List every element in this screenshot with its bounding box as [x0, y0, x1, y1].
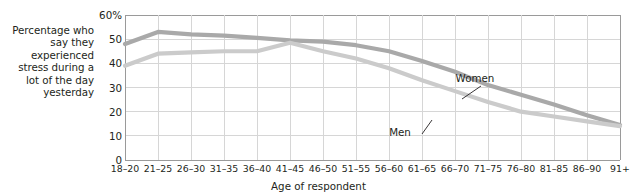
series-line-women: [125, 32, 620, 125]
x-axis-tick-label: 21–25: [144, 163, 173, 174]
x-axis-tick-label: 26–30: [177, 163, 206, 174]
x-axis-tick-label: 18–20: [111, 163, 140, 174]
x-axis-tick-label: 66–70: [441, 163, 470, 174]
series-label-women: Women: [456, 72, 495, 84]
leader-line-men: [422, 120, 432, 134]
x-axis-tick-labels: 18–2021–2526–3031–3536–4041–4546–5051–55…: [0, 163, 629, 179]
x-axis-tick-label: 31–35: [210, 163, 239, 174]
x-axis-tick-label: 76–80: [507, 163, 536, 174]
x-axis-tick-label: 91+: [610, 163, 630, 174]
series-annotations: WomenMen: [389, 72, 494, 138]
x-axis-tick-label: 41–45: [276, 163, 305, 174]
x-axis-tick-label: 51–55: [342, 163, 371, 174]
x-axis-tick-label: 81–85: [540, 163, 569, 174]
gridlines: [125, 15, 620, 160]
x-axis-title: Age of respondent: [0, 180, 629, 192]
x-axis-tick-label: 86–90: [573, 163, 602, 174]
series-label-men: Men: [389, 126, 411, 138]
x-axis-title-text: Age of respondent: [271, 180, 366, 192]
x-axis-tick-label: 71–75: [474, 163, 503, 174]
x-axis-tick-label: 46–50: [309, 163, 338, 174]
x-axis-tick-label: 56–60: [375, 163, 404, 174]
x-axis-tick-label: 61–65: [408, 163, 437, 174]
x-axis-tick-label: 36–40: [243, 163, 272, 174]
series-line-men: [125, 43, 620, 126]
